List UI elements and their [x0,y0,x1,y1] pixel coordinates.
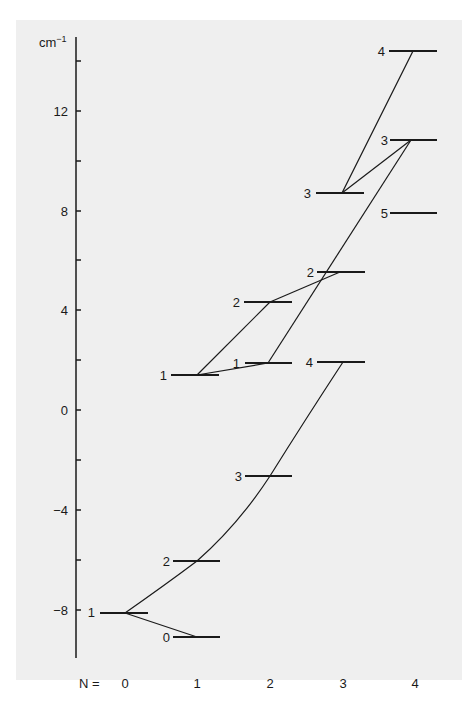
y-tick-label: 8 [61,204,68,219]
y-axis [76,37,81,658]
level-label: 0 [163,630,170,645]
level-label: 5 [381,206,388,221]
level-label: 3 [304,186,311,201]
level-label: 1 [88,605,95,620]
energy-level-diagram: cm−1 12 8 4 0 −4 −8 N = 0 1 2 3 4 [0,0,473,718]
connection-line [125,561,197,613]
connection-line [125,613,197,637]
connection-line [268,140,411,363]
n-value-label: 1 [193,676,200,691]
level-label: 2 [163,554,170,569]
connection-line [270,362,343,476]
level-label: 4 [306,355,313,370]
connection-lines [125,51,413,637]
connection-line [342,51,413,193]
level-label: 1 [160,368,167,383]
n-axis-labels: N = 0 1 2 3 4 [79,676,419,691]
level-label: 4 [378,44,385,59]
y-tick-label: 0 [61,403,68,418]
level-labels: 1 0 2 1 3 1 2 4 2 3 5 3 4 [88,44,388,645]
y-tick-label: −4 [53,503,68,518]
y-tick-label: −8 [53,603,68,618]
n-value-label: 0 [121,676,128,691]
level-label: 1 [233,356,240,371]
y-tick-labels: 12 8 4 0 −4 −8 [53,104,68,618]
level-label: 3 [235,469,242,484]
connection-line [270,272,340,302]
y-tick-label: 12 [54,104,68,119]
n-value-label: 4 [411,676,418,691]
level-label: 3 [381,133,388,148]
n-prefix-label: N = [79,676,100,691]
connection-line [197,476,270,561]
level-label: 2 [307,265,314,280]
y-axis-unit-label: cm−1 [39,34,67,50]
level-label: 2 [233,295,240,310]
n-value-label: 3 [339,676,346,691]
connection-line [342,140,411,193]
n-value-label: 2 [266,676,273,691]
y-tick-label: 4 [61,303,68,318]
